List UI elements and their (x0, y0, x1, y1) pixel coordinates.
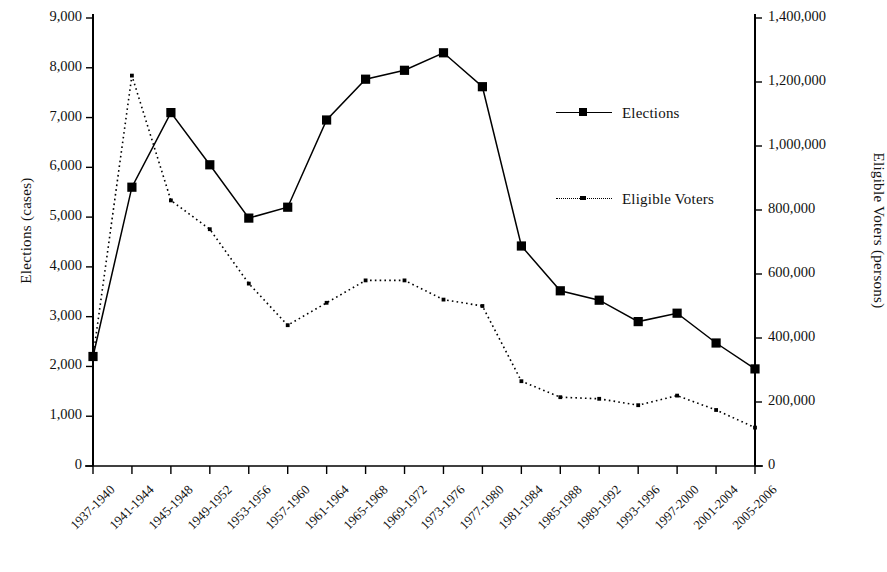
data-point-elections-12[interactable] (556, 286, 565, 295)
data-point-elections-1[interactable] (127, 183, 136, 192)
data-point-eligible-voters-13[interactable] (597, 397, 601, 401)
data-point-eligible-voters-2[interactable] (169, 199, 173, 203)
data-point-eligible-voters-16[interactable] (714, 408, 718, 412)
data-point-eligible-voters-6[interactable] (325, 301, 329, 305)
legend-item-eligible-voters[interactable]: Eligible Voters (556, 186, 786, 212)
data-point-elections-9[interactable] (439, 48, 448, 57)
data-point-elections-11[interactable] (517, 241, 526, 250)
data-point-elections-3[interactable] (205, 160, 214, 169)
data-point-elections-15[interactable] (673, 309, 682, 318)
data-point-elections-7[interactable] (361, 75, 370, 84)
data-point-eligible-voters-10[interactable] (481, 304, 485, 308)
data-point-eligible-voters-5[interactable] (286, 323, 290, 327)
legend-label-elections: Elections (622, 105, 680, 122)
chart-page: Elections (cases) Eligible Voters (perso… (0, 0, 887, 572)
data-point-elections-10[interactable] (478, 82, 487, 91)
data-point-eligible-voters-1[interactable] (130, 74, 134, 78)
data-point-eligible-voters-15[interactable] (675, 394, 679, 398)
data-point-elections-5[interactable] (283, 203, 292, 212)
data-point-elections-2[interactable] (166, 108, 175, 117)
legend-item-elections[interactable]: Elections (556, 100, 786, 126)
data-point-eligible-voters-11[interactable] (520, 379, 524, 383)
data-point-elections-8[interactable] (400, 66, 409, 75)
plot-svg (0, 0, 887, 572)
data-point-eligible-voters-9[interactable] (442, 298, 446, 302)
data-point-elections-17[interactable] (750, 364, 759, 373)
data-point-elections-4[interactable] (244, 214, 253, 223)
chart-legend: Elections Eligible Voters (556, 100, 786, 272)
plot-area (0, 0, 887, 572)
legend-line-dotted-icon (556, 192, 612, 206)
data-point-eligible-voters-8[interactable] (403, 279, 407, 283)
data-point-eligible-voters-4[interactable] (247, 282, 251, 286)
data-point-eligible-voters-12[interactable] (558, 395, 562, 399)
legend-line-solid-icon (556, 106, 612, 120)
data-point-eligible-voters-17[interactable] (753, 426, 757, 430)
legend-label-eligible-voters: Eligible Voters (622, 191, 714, 208)
data-point-elections-13[interactable] (595, 296, 604, 305)
data-point-eligible-voters-0[interactable] (91, 355, 95, 359)
data-point-elections-16[interactable] (712, 338, 721, 347)
data-point-eligible-voters-14[interactable] (636, 403, 640, 407)
data-point-elections-6[interactable] (322, 115, 331, 124)
data-point-elections-14[interactable] (634, 317, 643, 326)
data-point-eligible-voters-3[interactable] (208, 227, 212, 231)
data-point-eligible-voters-7[interactable] (364, 279, 368, 283)
